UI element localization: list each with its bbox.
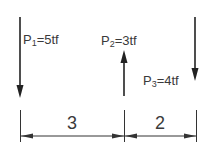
dimension-label-2: 2 <box>155 113 165 133</box>
force-p3-arrow-icon <box>192 17 199 81</box>
dimension-label-1: 3 <box>67 113 77 133</box>
extension-lines <box>21 110 197 142</box>
force-p2-label: P2=3tf <box>101 33 137 49</box>
force-p3-label: P3=4tf <box>143 73 179 89</box>
force-diagram: P1=5tf P2=3tf P3=4tf 3 2 <box>0 0 223 158</box>
dimension-line-2 <box>125 134 196 139</box>
force-p1-label: P1=5tf <box>23 32 59 48</box>
dimension-line-1 <box>21 134 124 139</box>
force-p1-arrow-icon <box>17 17 24 98</box>
force-p2-arrow-icon <box>121 50 128 96</box>
